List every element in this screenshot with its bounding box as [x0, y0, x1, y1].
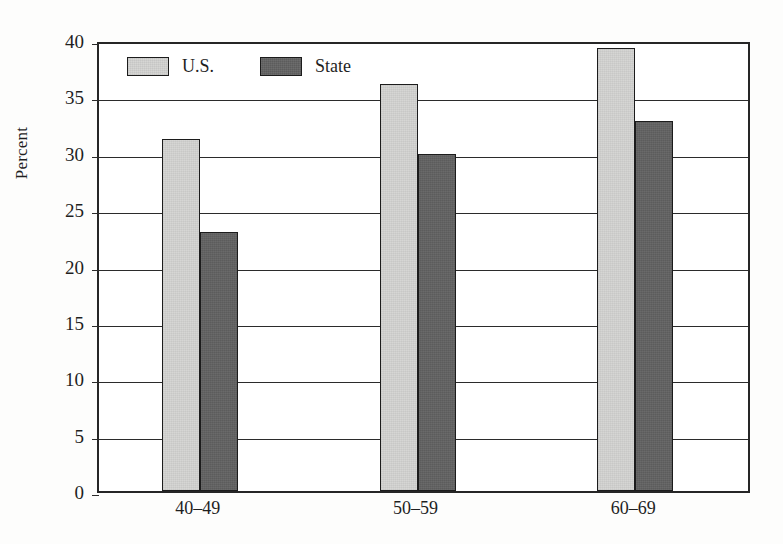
- y-axis-tick-mark: [92, 213, 99, 214]
- y-axis-tick-label: 20: [65, 257, 84, 279]
- y-axis-tick-mark: [92, 439, 99, 440]
- bar-state-60–69: [635, 121, 673, 491]
- y-axis-tick-label: 30: [65, 144, 84, 166]
- legend-item-state[interactable]: State: [260, 56, 351, 77]
- y-axis-tick-label: 15: [65, 313, 84, 335]
- y-axis-tick-label: 40: [65, 31, 84, 53]
- x-axis-tick-label: 60–69: [611, 498, 656, 519]
- y-axis-tick-label: 25: [65, 200, 84, 222]
- legend-swatch-state-icon: [260, 57, 302, 76]
- y-axis-tick-label: 0: [75, 482, 85, 504]
- bar-us-60–69: [597, 48, 635, 491]
- y-axis-tick-mark: [92, 326, 99, 327]
- y-axis-tick-label: 35: [65, 87, 84, 109]
- plot-area: U.S. State: [97, 42, 750, 493]
- bar-us-50–59: [380, 84, 418, 491]
- x-axis-tick-label-group: 40–4950–5960–69: [97, 498, 750, 532]
- bar-state-40–49: [200, 232, 238, 491]
- y-axis-tick-mark: [92, 100, 99, 101]
- chart-legend: U.S. State: [127, 56, 351, 77]
- y-axis-tick-mark: [92, 44, 99, 45]
- x-axis-tick-label: 40–49: [175, 498, 220, 519]
- bar-chart-figure: Percent 0510152025303540 U.S. State 40–4…: [0, 0, 783, 544]
- legend-label-us: U.S.: [182, 56, 214, 77]
- legend-label-state: State: [315, 56, 351, 77]
- y-axis-tick-mark: [92, 270, 99, 271]
- y-axis-title: Percent: [12, 83, 40, 223]
- x-axis-tick-label: 50–59: [393, 498, 438, 519]
- legend-swatch-us-icon: [127, 57, 169, 76]
- y-axis-tick-mark: [92, 157, 99, 158]
- y-axis-tick-label-group: 0510152025303540: [40, 42, 92, 493]
- bar-us-40–49: [162, 139, 200, 491]
- bar-state-50–59: [418, 154, 456, 491]
- legend-item-us[interactable]: U.S.: [127, 56, 214, 77]
- y-axis-tick-label: 5: [75, 426, 85, 448]
- y-axis-tick-mark: [92, 382, 99, 383]
- y-axis-tick-label: 10: [65, 369, 84, 391]
- y-axis-tick-mark: [92, 495, 99, 496]
- gridline: [99, 100, 748, 101]
